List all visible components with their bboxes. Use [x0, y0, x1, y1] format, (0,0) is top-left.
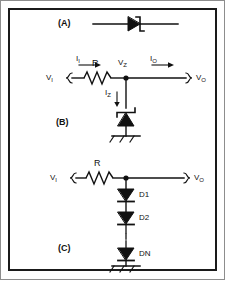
iz-subscript: Z — [107, 92, 111, 98]
panel-c-label: (C) — [58, 243, 71, 253]
panel-b-iz-label: IZ — [105, 88, 111, 97]
panel-c-circuit — [70, 172, 190, 272]
diode-1-label: D1 — [139, 190, 149, 199]
figure-container: (A) (B) (C) VI II R VZ IO VO IZ VI R VO … — [0, 0, 226, 281]
panel-a-label: (A) — [58, 18, 71, 28]
panel-b-vin-label: VI — [46, 73, 53, 82]
schematic-drawing — [0, 0, 226, 281]
vin-subscript: I — [51, 77, 53, 83]
panel-b-label: (B) — [56, 117, 69, 127]
diode-2-label: D2 — [139, 213, 149, 222]
diode-n-label: DN — [139, 249, 151, 258]
vout-c-subscript: O — [199, 177, 204, 183]
vin-c-subscript: I — [55, 177, 57, 183]
panel-c-vout-label: VO — [194, 173, 204, 182]
panel-c-resistor-label: R — [94, 158, 101, 168]
vout-subscript: O — [201, 77, 206, 83]
iout-subscript: O — [152, 58, 157, 64]
panel-a-zener-symbol — [93, 17, 178, 31]
panel-b-circuit — [66, 62, 192, 142]
vz-subscript: Z — [123, 62, 127, 68]
panel-b-vz-label: VZ — [118, 58, 127, 67]
panel-c-vin-label: VI — [50, 173, 57, 182]
panel-b-resistor-label: R — [92, 58, 99, 68]
panel-b-iin-label: II — [76, 54, 80, 63]
panel-b-iout-label: IO — [150, 54, 157, 63]
panel-b-vout-label: VO — [196, 73, 206, 82]
iin-subscript: I — [78, 58, 80, 64]
